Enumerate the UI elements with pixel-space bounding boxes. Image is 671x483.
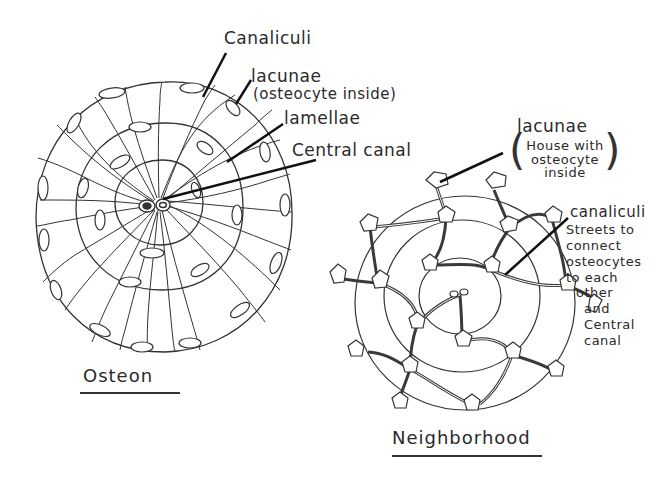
- streets-note-line-3: osteocytes: [566, 254, 641, 270]
- neighborhood-title-underline: [392, 455, 542, 457]
- label-neighborhood-lacunae: lacunae: [517, 118, 587, 136]
- house-note-line-3: inside: [519, 166, 611, 180]
- label-neighborhood-canaliculi: canaliculi: [570, 205, 646, 221]
- neighborhood-drawing: [330, 153, 602, 410]
- house-note-line-2: osteocyte: [519, 153, 611, 167]
- label-lacunae: lacunae: [251, 68, 321, 86]
- label-canaliculi: Canaliculi: [224, 30, 312, 48]
- label-central-canal: Central canal: [292, 142, 411, 160]
- open-paren: (: [509, 130, 526, 172]
- neighborhood-title: Neighborhood: [392, 427, 531, 448]
- osteon-title: Osteon: [83, 365, 153, 386]
- label-lamellae: lamellae: [284, 110, 360, 128]
- neighborhood-outer-ring: [355, 196, 575, 410]
- label-lacunae-note: (osteocyte inside): [253, 87, 396, 103]
- label-house-note: House with osteocyte inside: [519, 139, 611, 180]
- streets-note-line-8: canal: [566, 333, 641, 349]
- streets-note-line-6: and: [566, 301, 641, 317]
- house-note-line-1: House with: [519, 139, 611, 153]
- streets-note-line-5: other: [566, 285, 641, 301]
- streets-note-line-4: to each: [566, 270, 641, 286]
- streets-note-line-7: Central: [566, 317, 641, 333]
- osteon-title-underline: [80, 392, 180, 394]
- label-streets-note: Streets to connect osteocytes to each ot…: [566, 222, 641, 349]
- close-paren: ): [604, 130, 621, 172]
- streets-note-line-2: connect: [566, 238, 641, 254]
- streets-note-line-1: Streets to: [566, 222, 641, 238]
